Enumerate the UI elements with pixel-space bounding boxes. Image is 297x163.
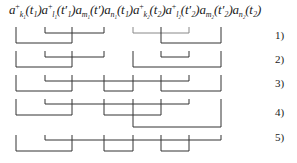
row-label-3: 3) — [275, 77, 284, 89]
contraction-row-3 — [16, 75, 221, 91]
contraction-row-5 — [16, 135, 221, 151]
contraction-row-1 — [16, 27, 221, 43]
contraction-row-4 — [16, 99, 221, 127]
contraction-diagram — [0, 0, 297, 163]
row-label-2: 2) — [275, 53, 284, 65]
row-label-4: 4) — [275, 106, 284, 118]
contraction-row-2 — [16, 51, 221, 67]
row-label-5: 5) — [275, 131, 284, 143]
row-label-1: 1) — [275, 29, 284, 41]
